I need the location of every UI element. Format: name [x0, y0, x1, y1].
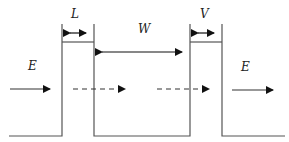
potential-profile [9, 24, 62, 136]
label-e-incident: E [28, 60, 37, 72]
left-barrier-right-edge [94, 24, 190, 136]
label-w: W [138, 23, 150, 35]
label-l: L [71, 8, 79, 20]
label-v: V [200, 8, 209, 20]
label-e-transmitted: E [241, 61, 250, 73]
right-barrier-right-edge [222, 24, 285, 136]
